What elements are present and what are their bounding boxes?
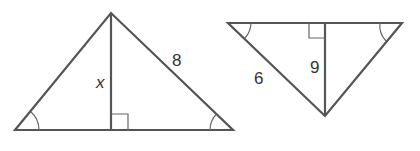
left-base-left-angle-arc xyxy=(31,112,40,131)
left-base-right-angle-arc xyxy=(210,114,217,130)
label-8: 8 xyxy=(172,51,181,70)
right-top-left-angle-arc xyxy=(245,23,251,38)
label-9: 9 xyxy=(310,58,319,77)
label-6: 6 xyxy=(254,69,263,88)
label-x: x xyxy=(95,73,105,92)
left-right-angle-mark xyxy=(111,114,128,130)
left-triangle-outline xyxy=(15,13,233,130)
right-triangle: 6 9 xyxy=(228,23,402,116)
geometry-diagram: x 8 6 9 xyxy=(0,0,420,151)
right-right-angle-mark xyxy=(309,23,325,38)
right-top-right-angle-arc xyxy=(380,23,386,41)
left-triangle: x 8 xyxy=(15,13,233,130)
